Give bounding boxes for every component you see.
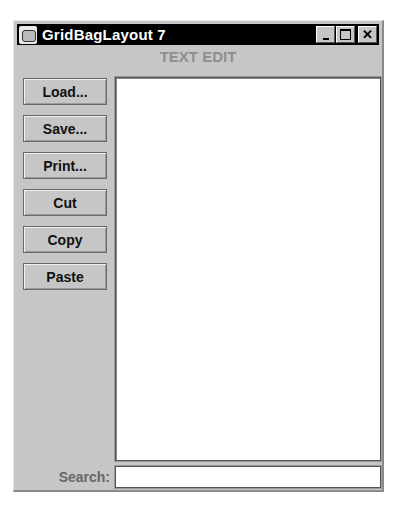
section-header: TEXT EDIT bbox=[14, 48, 382, 65]
maximize-icon bbox=[340, 29, 351, 40]
close-icon: ✕ bbox=[362, 27, 373, 42]
app-window: GridBagLayout 7 ✕ TEXT EDIT Load... Save… bbox=[13, 20, 384, 492]
maximize-button[interactable] bbox=[336, 26, 355, 43]
java-cup-icon[interactable] bbox=[19, 26, 37, 44]
search-label: Search: bbox=[34, 469, 110, 485]
print-button[interactable]: Print... bbox=[23, 152, 107, 179]
window-controls: ✕ bbox=[316, 26, 377, 43]
search-input[interactable] bbox=[115, 466, 381, 488]
cut-button[interactable]: Cut bbox=[23, 189, 107, 216]
minimize-icon bbox=[323, 38, 329, 40]
paste-button[interactable]: Paste bbox=[23, 263, 107, 290]
title-bar[interactable]: GridBagLayout 7 ✕ bbox=[17, 24, 379, 45]
text-edit-area[interactable] bbox=[115, 77, 381, 461]
save-button[interactable]: Save... bbox=[23, 115, 107, 142]
window-title: GridBagLayout 7 bbox=[42, 26, 166, 43]
minimize-button[interactable] bbox=[316, 26, 335, 43]
copy-button[interactable]: Copy bbox=[23, 226, 107, 253]
close-button[interactable]: ✕ bbox=[358, 26, 377, 43]
load-button[interactable]: Load... bbox=[23, 78, 107, 105]
